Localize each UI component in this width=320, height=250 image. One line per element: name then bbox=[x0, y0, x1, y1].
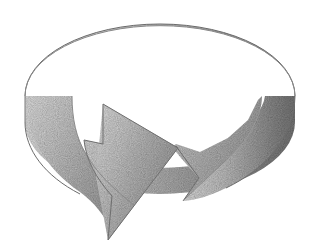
ribbon-group bbox=[25, 24, 295, 240]
cycle-arrow-illustration bbox=[0, 0, 320, 250]
ribbon-top-face bbox=[25, 24, 295, 96]
figure-root bbox=[0, 0, 320, 250]
